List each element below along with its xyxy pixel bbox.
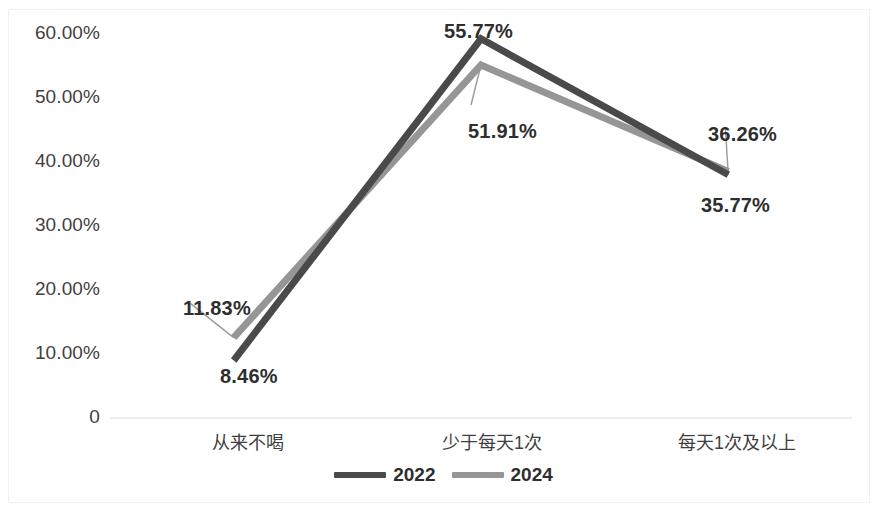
x-axis-tick-0: 从来不喝: [133, 428, 363, 454]
legend-item-2024[interactable]: 2024: [452, 464, 553, 486]
series-line-2022: [234, 39, 729, 361]
x-axis-tick-1: 少于每天1次: [377, 428, 607, 454]
data-label-2024-0: 11.83%: [183, 297, 251, 320]
y-axis-tick-20: 20.00%: [0, 278, 100, 300]
data-label-2024-2: 36.26%: [708, 123, 777, 146]
legend-item-2022[interactable]: 2022: [334, 464, 435, 486]
legend-label-2022: 2022: [393, 464, 435, 486]
y-axis-tick-50: 50.00%: [0, 86, 100, 108]
chart-legend: 2022 2024: [0, 464, 887, 486]
data-label-2022-2: 35.77%: [701, 194, 770, 217]
y-axis-tick-30: 30.00%: [0, 214, 100, 236]
series-line-2024: [234, 65, 729, 338]
data-label-2022-0: 8.46%: [220, 365, 278, 388]
y-axis-tick-0: 0: [0, 406, 100, 428]
x-axis-tick-2: 每天1次及以上: [622, 428, 852, 454]
y-axis-tick-10: 10.00%: [0, 342, 100, 364]
y-axis-tick-60: 60.00%: [0, 22, 100, 44]
line-chart: 60.00% 50.00% 40.00% 30.00% 20.00% 10.00…: [0, 0, 887, 512]
y-axis-tick-40: 40.00%: [0, 150, 100, 172]
data-label-2024-1: 51.91%: [468, 120, 537, 143]
legend-label-2024: 2024: [511, 464, 553, 486]
data-label-2022-1: 55.77%: [444, 20, 513, 43]
plot-area: 8.46% 11.83% 55.77% 51.91% 35.77% 36.26%: [110, 10, 852, 418]
legend-swatch-2022-icon: [334, 472, 386, 478]
legend-swatch-2024-icon: [452, 472, 504, 478]
